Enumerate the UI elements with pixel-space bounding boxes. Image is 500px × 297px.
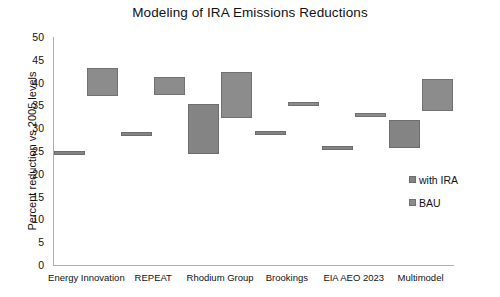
y-axis-tick-label: 35 xyxy=(16,100,44,110)
range-bar[interactable] xyxy=(121,132,152,136)
range-bar[interactable] xyxy=(422,79,453,110)
range-bar[interactable] xyxy=(389,120,420,148)
range-bar[interactable] xyxy=(87,68,118,95)
y-axis-tick-label: 20 xyxy=(16,169,44,179)
y-axis-tick-label: 10 xyxy=(16,214,44,224)
y-axis-tick-label: 40 xyxy=(16,78,44,88)
range-bar[interactable] xyxy=(255,131,286,135)
range-bar[interactable] xyxy=(221,72,252,118)
legend-item-bau[interactable]: BAU xyxy=(409,191,497,214)
chart-container: Modeling of IRA Emissions Reductions Per… xyxy=(0,0,500,297)
y-axis-tick-label: 30 xyxy=(16,123,44,133)
y-axis-tick-label: 15 xyxy=(16,192,44,202)
legend-swatch-icon-with-ira xyxy=(409,176,416,183)
chart-legend: with IRA BAU xyxy=(409,168,497,214)
range-bar[interactable] xyxy=(54,151,85,155)
y-axis-tick-label: 25 xyxy=(16,146,44,156)
range-bar[interactable] xyxy=(188,104,219,154)
y-axis-tick-label: 5 xyxy=(16,237,44,247)
legend-swatch-icon-bau xyxy=(409,199,416,206)
range-bar[interactable] xyxy=(154,77,185,95)
legend-label-bau: BAU xyxy=(419,197,441,209)
y-axis-tick-label: 50 xyxy=(16,32,44,42)
legend-label-with-ira: with IRA xyxy=(419,174,458,186)
range-bar[interactable] xyxy=(355,113,386,117)
chart-title: Modeling of IRA Emissions Reductions xyxy=(0,5,500,20)
y-axis-tick-label: 45 xyxy=(16,55,44,65)
y-axis-tick-label: 0 xyxy=(16,260,44,270)
plot-area xyxy=(53,37,454,265)
legend-item-with-ira[interactable]: with IRA xyxy=(409,168,497,191)
x-axis-tick-label: Multimodel xyxy=(341,272,500,283)
range-bar[interactable] xyxy=(288,102,319,106)
x-axis-line xyxy=(53,265,454,266)
range-bar[interactable] xyxy=(322,146,353,150)
